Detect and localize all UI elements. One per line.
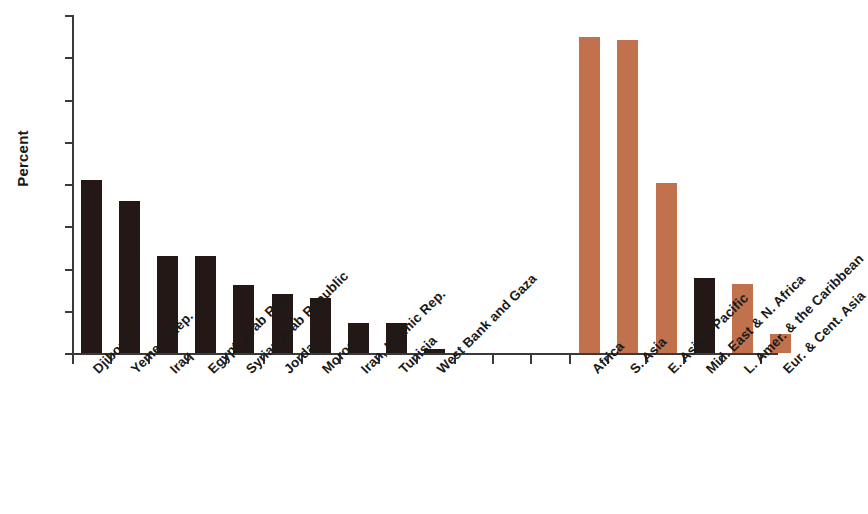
x-tick-mark (492, 355, 494, 364)
y-tick-mark (65, 311, 73, 313)
y-tick-mark (65, 57, 73, 59)
bar (119, 201, 140, 353)
y-tick-mark (65, 269, 73, 271)
bar (81, 180, 102, 353)
bar (195, 256, 216, 353)
category-label: West Bank and Gaza (434, 271, 540, 377)
y-tick-mark (65, 184, 73, 186)
x-tick-mark (569, 355, 571, 364)
bar (617, 40, 638, 353)
y-axis-title: Percent (14, 99, 31, 219)
y-tick-mark (65, 100, 73, 102)
bar (656, 183, 677, 353)
y-tick-mark (65, 142, 73, 144)
x-tick-mark (72, 355, 74, 364)
x-tick-mark (530, 355, 532, 364)
y-tick-mark (65, 15, 73, 17)
bar (579, 37, 600, 353)
y-tick-mark (65, 226, 73, 228)
